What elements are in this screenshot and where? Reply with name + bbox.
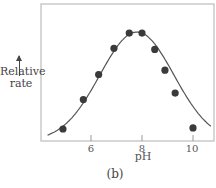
plot-frame xyxy=(41,4,214,141)
tick-label-10: 10 xyxy=(182,143,202,154)
tick-label-6: 6 xyxy=(81,143,101,154)
data-point xyxy=(138,29,145,36)
data-point xyxy=(80,96,87,103)
data-points xyxy=(59,29,196,132)
data-point xyxy=(126,29,133,36)
x-axis-label: pH xyxy=(118,150,168,163)
x-axis-ticks xyxy=(91,135,193,141)
data-point xyxy=(95,71,102,78)
data-point xyxy=(172,89,179,96)
y-label-line2: rate xyxy=(0,78,42,90)
bell-curve xyxy=(48,32,211,135)
chart-plot xyxy=(0,0,216,188)
data-point xyxy=(151,46,158,53)
y-axis-label: Relative rate xyxy=(0,66,42,90)
data-point xyxy=(189,124,196,131)
data-point xyxy=(161,67,168,74)
data-point xyxy=(110,45,117,52)
data-point xyxy=(59,125,66,132)
figure-caption: (b) xyxy=(95,167,135,181)
